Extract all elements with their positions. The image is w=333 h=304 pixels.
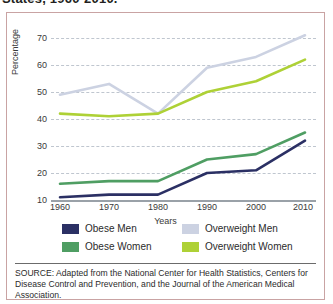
x-tick-1980: 1980: [141, 203, 175, 212]
legend-item-overweight-men: Overweight Men: [182, 223, 278, 234]
chart-legend: Obese Men Obese Women Overweight Men Ove…: [7, 221, 324, 259]
series-lines: [7, 13, 324, 213]
line-obese-women: [60, 133, 305, 184]
page-title: States, 1960-2010.: [2, 0, 118, 6]
x-tick-2000: 2000: [239, 203, 273, 212]
line-overweight-women: [60, 60, 305, 117]
legend-label-overweight-women: Overweight Women: [205, 241, 293, 252]
figure-page: States, 1960-2010. Percentage 70 60 50 4…: [0, 0, 333, 304]
x-tick-1990: 1990: [190, 203, 224, 212]
legend-item-overweight-women: Overweight Women: [182, 241, 293, 252]
legend-swatch-overweight-men: [182, 224, 199, 234]
legend-swatch-overweight-women: [182, 242, 199, 252]
legend-swatch-obese-women: [62, 242, 79, 252]
x-tick-1970: 1970: [92, 203, 126, 212]
plot-area: Percentage 70 60 50 40 30 20 10: [7, 13, 324, 213]
legend-label-obese-women: Obese Women: [85, 241, 152, 252]
legend-label-overweight-men: Overweight Men: [205, 223, 278, 234]
x-tick-1960: 1960: [43, 203, 77, 212]
legend-label-obese-men: Obese Men: [85, 223, 137, 234]
figure-title-cropped: States, 1960-2010.: [0, 0, 333, 11]
source-divider: [15, 263, 316, 264]
source-note: SOURCE: Adapted from the National Center…: [15, 268, 318, 302]
legend-swatch-obese-men: [62, 224, 79, 234]
figure-frame: Percentage 70 60 50 40 30 20 10: [6, 12, 325, 300]
x-tick-2010: 2010: [286, 203, 320, 212]
legend-item-obese-men: Obese Men: [62, 223, 137, 234]
legend-item-obese-women: Obese Women: [62, 241, 152, 252]
